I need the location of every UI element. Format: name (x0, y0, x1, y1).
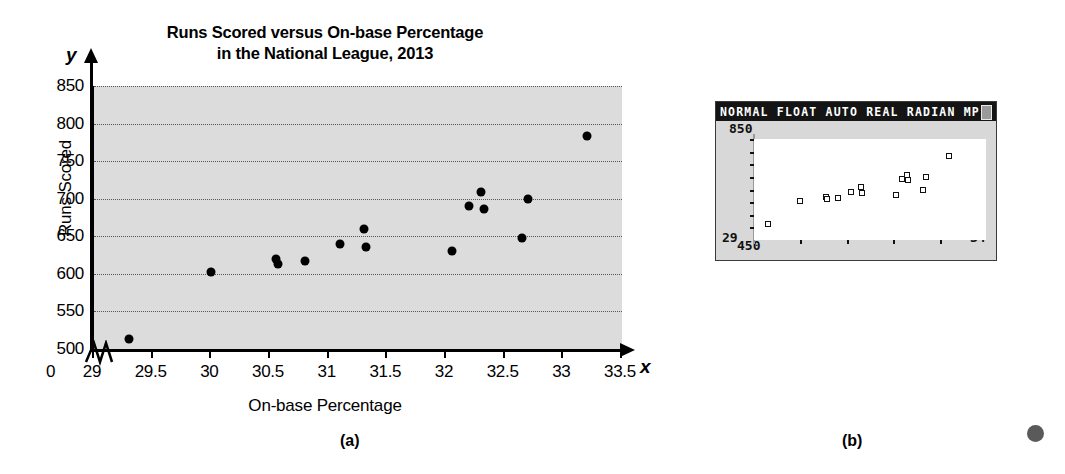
gridline (94, 274, 622, 275)
x-axis-tick (620, 349, 622, 358)
panel-b-caption: (b) (842, 432, 862, 450)
y-axis-variable-label: y (66, 44, 77, 66)
calculator-data-point (905, 177, 911, 183)
calculator-data-point (920, 187, 926, 193)
x-axis-tick (444, 349, 446, 358)
calculator-data-point (893, 192, 899, 198)
y-axis-tick-label: 500 (26, 339, 84, 359)
x-axis-tick (327, 349, 329, 358)
x-axis-tick-label: 32 (414, 362, 474, 382)
calculator-data-point (946, 153, 952, 159)
x-axis-tick (385, 349, 387, 358)
x-axis-tick (151, 349, 153, 358)
calculator-x-tick (940, 240, 942, 244)
data-point (524, 194, 533, 203)
data-point (125, 335, 134, 344)
calculator-screen: NORMAL FLOAT AUTO REAL RADIAN MP 850 29 … (715, 101, 997, 261)
calculator-x-tick (800, 240, 802, 244)
x-axis-tick (503, 349, 505, 358)
x-axis-tick-label: 30.5 (238, 362, 298, 382)
data-point (336, 239, 345, 248)
x-axis-tick (209, 349, 211, 358)
chart-title-line-2: in the National League, 2013 (110, 43, 540, 64)
x-axis-tick-label: 33.5 (590, 362, 650, 382)
y-axis-tick-label: 550 (26, 301, 84, 321)
chart-title: Runs Scored versus On-base Percentage in… (110, 22, 540, 63)
data-point (582, 132, 591, 141)
chart-title-line-1: Runs Scored versus On-base Percentage (110, 22, 540, 43)
calculator-data-point (765, 221, 771, 227)
plot-area: 500550600650700750800850 Runs Scored (92, 86, 622, 349)
data-point (465, 202, 474, 211)
data-point (518, 233, 527, 242)
x-axis-tick-label: 33 (531, 362, 591, 382)
x-axis-tick-label: 30 (179, 362, 239, 382)
calculator-data-point (824, 196, 830, 202)
x-axis-tick-label: 29.5 (121, 362, 181, 382)
calculator-data-point (835, 195, 841, 201)
calculator-ymin-label: 450 (737, 238, 760, 253)
calculator-x-tick (847, 240, 849, 244)
x-axis-tick (268, 349, 270, 358)
scatterplot-panel: Runs Scored versus On-base Percentage in… (0, 0, 690, 474)
x-axis-tick-label: 31 (297, 362, 357, 382)
y-axis-title: Runs Scored (56, 140, 76, 236)
figure-container: Runs Scored versus On-base Percentage in… (0, 0, 1065, 474)
calculator-status-bar: NORMAL FLOAT AUTO REAL RADIAN MP (716, 102, 996, 121)
decorative-corner-dot (1027, 425, 1044, 442)
calculator-data-point (848, 189, 854, 195)
data-point (447, 247, 456, 256)
x-axis-line (92, 349, 622, 352)
gridline (94, 161, 622, 162)
x-axis-tick-label: 29 (62, 362, 122, 382)
data-point (301, 257, 310, 266)
calculator-x-tick (893, 240, 895, 244)
data-point (362, 242, 371, 251)
x-axis-tick-label: 31.5 (355, 362, 415, 382)
y-axis-tick-label: 850 (26, 76, 84, 96)
gridline (94, 124, 622, 125)
calculator-status-text: NORMAL FLOAT AUTO REAL RADIAN MP (720, 105, 980, 119)
data-point (207, 267, 216, 276)
y-axis-tick-label: 600 (26, 264, 84, 284)
gridline (94, 311, 622, 312)
gridline (94, 236, 622, 237)
x-axis-origin-label: 0 (46, 362, 55, 382)
gridline (94, 86, 622, 87)
x-axis-arrow-icon (620, 343, 635, 357)
calculator-data-point (859, 190, 865, 196)
data-point (274, 260, 283, 269)
x-axis-tick (561, 349, 563, 358)
x-axis-tick-label: 32.5 (473, 362, 533, 382)
calculator-plot-area (754, 139, 986, 240)
x-axis-tick (92, 349, 94, 358)
battery-icon (981, 105, 992, 120)
data-point (359, 224, 368, 233)
data-point (479, 205, 488, 214)
calculator-ymax-label: 850 (729, 121, 752, 136)
y-axis-tick-label: 800 (26, 114, 84, 134)
x-axis-title: On-base Percentage (170, 396, 480, 416)
calculator-data-point (797, 198, 803, 204)
calculator-panel: NORMAL FLOAT AUTO REAL RADIAN MP 850 29 … (690, 0, 1065, 474)
calculator-data-point (923, 174, 929, 180)
gridline (94, 199, 622, 200)
data-point (477, 187, 486, 196)
panel-a-caption: (a) (340, 432, 360, 450)
calculator-xmin-label: 29 (722, 230, 738, 245)
